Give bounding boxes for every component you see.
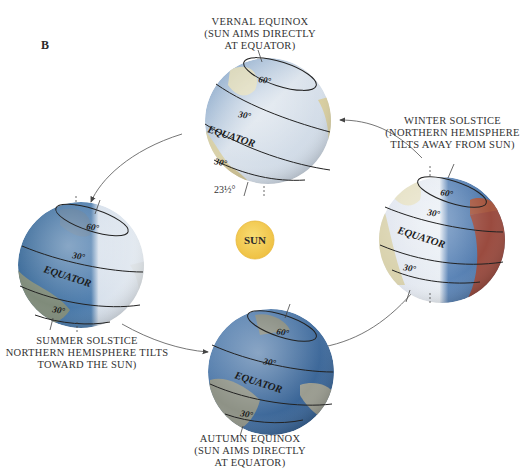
caption-vernal-equinox: VERNAL EQUINOX (SUN AIMS DIRECTLY AT EQU… [200,16,320,52]
arrow-vernal-to-summer [91,134,182,202]
sun-label: SUN [244,234,266,246]
tilt-label: 23½° [214,184,236,195]
globe-winter-solstice: 60° 30° EQUATOR 30° [375,164,510,305]
seasons-diagram: SUN 60° 30° EQUATOR 30° 23½° [0,0,525,476]
globe-autumn-equinox: 60° 30° EQUATOR 30° [205,304,335,436]
sun: SUN [236,221,274,259]
globe-summer-solstice: 60° 30° EQUATOR 30° [15,196,150,334]
caption-autumn-equinox: AUTUMN EQUINOX (SUN AIMS DIRECTLY AT EQU… [185,433,315,469]
caption-summer-solstice: SUMMER SOLSTICE NORTHERN HEMISPHERE TILT… [2,335,172,371]
arrow-autumn-to-winter [323,287,417,347]
caption-winter-solstice: WINTER SOLSTICE (NORTHERN HEMISPHERE TIL… [380,115,525,151]
svg-text:30°: 30° [213,156,229,169]
globe-vernal-equinox: 60° 30° EQUATOR 30° 23½° [200,50,335,198]
